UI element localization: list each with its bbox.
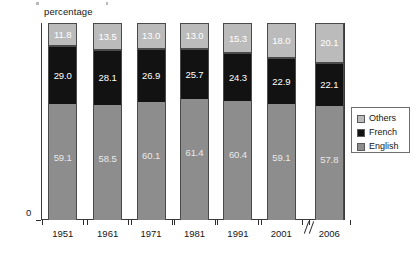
x-axis-label: 1971	[140, 228, 161, 240]
bar-value-label: 59.1	[272, 152, 290, 163]
x-axis-tick-mark	[172, 220, 173, 225]
x-axis-tick-mark	[87, 220, 88, 225]
bar-value-label: 24.3	[229, 72, 247, 83]
y-axis: 100908070605040302010	[0, 0, 41, 259]
bar-value-label: 60.4	[229, 149, 247, 160]
x-axis-tick-mark	[217, 220, 218, 225]
legend-swatch-french	[357, 129, 365, 137]
bar-value-label: 61.4	[185, 147, 203, 158]
bar-segment-others[interactable]: 13.0	[138, 23, 165, 49]
x-axis-tick-mark	[261, 220, 262, 225]
bar-segment-others[interactable]: 13.5	[94, 23, 121, 50]
bar-segment-others[interactable]: 11.8	[49, 23, 76, 46]
bar-value-label: 57.8	[320, 154, 338, 165]
bar-segment-french[interactable]: 26.9	[138, 49, 165, 102]
bar-value-label: 20.1	[320, 37, 338, 48]
bar-segment-english[interactable]: 60.4	[224, 101, 251, 220]
x-axis-label: 1981	[184, 228, 205, 240]
bar-segment-french[interactable]: 28.1	[94, 50, 121, 105]
bar-value-label: 13.5	[99, 31, 117, 42]
bar-segment-english[interactable]: 58.5	[94, 105, 121, 220]
bar-segment-english[interactable]: 59.1	[49, 104, 76, 220]
x-axis-label: 1991	[227, 228, 248, 240]
bar-value-label: 29.0	[54, 70, 72, 81]
bar-segment-others[interactable]: 13.0	[181, 23, 208, 49]
bar-segment-others[interactable]: 20.1	[316, 23, 343, 63]
bar-stack: 59.122.918.0	[267, 23, 296, 220]
bars-layer: 59.129.011.858.528.113.560.126.913.061.4…	[41, 23, 345, 220]
bar-value-label: 11.8	[54, 29, 71, 40]
bar-value-label: 18.0	[272, 35, 290, 46]
x-axis-tick-mark	[83, 220, 84, 225]
legend-item[interactable]: Others	[357, 112, 409, 125]
axis-break-icon	[303, 221, 319, 237]
legend-label: French	[369, 127, 397, 138]
bar-value-label: 26.9	[142, 70, 160, 81]
bar-segment-french[interactable]: 25.7	[181, 49, 208, 100]
bar-value-label: 22.1	[320, 79, 338, 90]
legend-swatch-english	[357, 143, 365, 151]
x-axis-tick-mark	[131, 220, 132, 225]
bar-value-label: 15.3	[229, 33, 247, 44]
x-axis-tick-mark	[128, 220, 129, 225]
bar-value-label: 28.1	[99, 72, 117, 83]
y-axis-unit-label: percentage	[44, 6, 93, 17]
bar-group[interactable]: 58.528.113.5	[93, 23, 122, 220]
bar-segment-others[interactable]: 18.0	[268, 23, 295, 58]
legend-item[interactable]: French	[357, 126, 409, 139]
x-axis-label: 1961	[97, 228, 118, 240]
bar-segment-english[interactable]: 60.1	[138, 102, 165, 220]
bar-value-label: 58.5	[99, 153, 117, 164]
x-axis: 1951196119711981199120012006	[41, 220, 345, 250]
x-axis-label: 2006	[319, 228, 340, 240]
bar-segment-french[interactable]: 29.0	[49, 46, 76, 103]
bar-stack: 61.425.713.0	[180, 23, 209, 220]
y-axis-zero-label: 0	[26, 207, 31, 219]
x-axis-label: 2001	[271, 228, 292, 240]
bar-stack: 60.126.913.0	[137, 23, 166, 220]
bar-value-label: 22.9	[272, 76, 290, 87]
bar-segment-english[interactable]: 57.8	[316, 106, 343, 220]
bar-value-label: 13.0	[142, 30, 160, 41]
bar-segment-french[interactable]: 24.3	[224, 53, 251, 101]
scan-artifact	[106, 2, 108, 5]
bar-value-label: 59.1	[54, 152, 72, 163]
legend-label: Others	[369, 113, 396, 124]
bar-stack: 58.528.113.5	[93, 23, 122, 220]
bar-group[interactable]: 61.425.713.0	[180, 23, 209, 220]
bar-value-label: 13.0	[185, 30, 203, 41]
bar-value-label: 25.7	[185, 69, 203, 80]
x-axis-tick-mark	[42, 220, 43, 225]
legend-item[interactable]: English	[357, 140, 409, 153]
x-axis-tick-mark	[215, 220, 216, 225]
legend-label: English	[369, 141, 399, 152]
bar-group[interactable]: 59.129.011.8	[48, 23, 77, 220]
x-axis-tick-mark	[174, 220, 175, 225]
x-axis-tick-mark	[350, 220, 351, 225]
x-axis-tick-mark	[258, 220, 259, 225]
bar-group[interactable]: 60.424.315.3	[223, 23, 252, 220]
legend-swatch-others	[357, 115, 365, 123]
bar-value-label: 60.1	[142, 150, 160, 161]
bar-stack: 59.129.011.8	[48, 23, 77, 220]
bar-stack: 60.424.315.3	[223, 23, 252, 220]
bar-segment-french[interactable]: 22.1	[316, 63, 343, 107]
bar-group[interactable]: 60.126.913.0	[137, 23, 166, 220]
x-axis-label: 1951	[52, 228, 73, 240]
bar-group[interactable]: 59.122.918.0	[267, 23, 296, 220]
bar-segment-others[interactable]: 15.3	[224, 23, 251, 53]
bar-group[interactable]: 57.822.120.1	[315, 23, 344, 220]
legend: OthersFrenchEnglish	[351, 107, 410, 153]
bar-segment-english[interactable]: 61.4	[181, 99, 208, 220]
bar-segment-english[interactable]: 59.1	[268, 104, 295, 220]
bar-segment-french[interactable]: 22.9	[268, 58, 295, 103]
stacked-bar-chart: percentage 100908070605040302010 59.129.…	[0, 0, 417, 259]
bar-stack: 57.822.120.1	[315, 23, 344, 220]
